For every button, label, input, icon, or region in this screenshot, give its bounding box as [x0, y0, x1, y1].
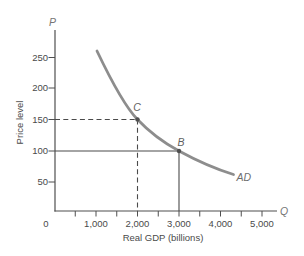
point-b-label: B: [177, 136, 184, 148]
y-tick-label: 200: [32, 82, 48, 93]
ad-curve-path: [97, 51, 234, 175]
y-axis-ticks: [49, 58, 56, 183]
x-tick-label: 3,000: [167, 218, 191, 229]
x-tick-label: 1,000: [84, 218, 108, 229]
ad-curve-label: AD: [236, 171, 252, 183]
ad-curve-figure: 50 100 150 200 250 0 1,000 2,000 3,000 4…: [0, 0, 304, 256]
y-axis-title: Price level: [14, 101, 25, 145]
x-axis-ticks: [75, 211, 262, 217]
x-axis-title: Real GDP (billions): [123, 232, 204, 243]
ad-curve-chart: 50 100 150 200 250 0 1,000 2,000 3,000 4…: [0, 0, 304, 256]
y-tick-label: 150: [32, 114, 48, 125]
y-tick-label: 100: [32, 145, 48, 156]
y-axis-tick-labels: 50 100 150 200 250: [32, 52, 48, 188]
point-b-marker: [177, 149, 181, 153]
point-c-marker: [135, 117, 139, 121]
x-tick-label: 0: [43, 218, 48, 229]
x-tick-label: 2,000: [126, 218, 150, 229]
point-c-label: C: [133, 101, 141, 113]
x-tick-label: 4,000: [209, 218, 233, 229]
x-axis-symbol: Q: [280, 205, 288, 217]
y-tick-label: 50: [37, 176, 48, 187]
y-tick-label: 250: [32, 52, 48, 63]
y-axis-symbol: P: [49, 16, 56, 28]
x-axis-tick-labels: 0 1,000 2,000 3,000 4,000 5,000: [43, 218, 274, 229]
x-tick-label: 5,000: [250, 218, 274, 229]
